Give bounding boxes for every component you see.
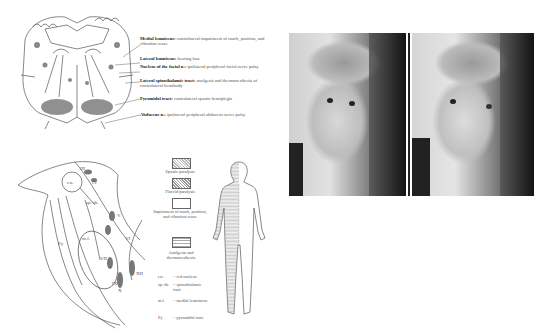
svg-text:IV: IV [92, 180, 98, 185]
label-abducens: Abducens n.: ipsilateral peripheral abdu… [140, 112, 270, 117]
svg-text:X: X [118, 288, 122, 293]
abbr-spth-meaning: = spinothalamic tract [173, 282, 209, 292]
abbr-ml: m.l. [158, 298, 165, 303]
svg-text:VI: VI [125, 236, 131, 241]
legend-swatch-touch [172, 198, 191, 209]
label-rn: r.n. [67, 180, 73, 185]
body-figure-diagram [208, 160, 270, 322]
eye-icon [327, 98, 333, 103]
svg-text:XII: XII [136, 271, 143, 276]
eye-icon [349, 101, 355, 106]
abbr-py-meaning: = pyramidal tract [173, 315, 203, 320]
svg-text:IX: IX [112, 281, 118, 286]
svg-text:III: III [80, 166, 85, 171]
svg-text:VII: VII [100, 256, 107, 261]
photo-divider [408, 33, 410, 196]
legend-swatch-analgesia [172, 237, 191, 248]
legend-swatch-flaccid [172, 178, 191, 189]
label-facial-nucleus: Nucleus of the facial n.: ipsilateral pe… [140, 64, 270, 69]
label-lateral-lemniscus: Lateral lemniscus: hearing loss [140, 56, 270, 61]
svg-text:Py: Py [58, 241, 64, 246]
legend-swatch-spastic [172, 158, 191, 169]
patient-photo-left [289, 33, 406, 196]
abbr-ml-meaning: = medial lemniscus [173, 298, 207, 303]
abbr-py: Py [158, 315, 163, 320]
legend-label-spastic: Spastic paralysis [150, 169, 210, 174]
svg-text:m.l.: m.l. [82, 236, 90, 241]
label-pyramidal-tract: Pyramidal tract: contralateral spastic h… [140, 96, 270, 101]
svg-text:sp.-th.: sp.-th. [86, 200, 99, 205]
label-medial-lemniscus: Medial lemniscus: contralateral impairme… [140, 36, 270, 47]
svg-text:V: V [117, 213, 121, 218]
legend-label-flaccid: Flaccid paralysis [150, 189, 210, 194]
abbr-rn: r.n. [158, 274, 164, 279]
patient-photo-right [412, 33, 534, 196]
eye-icon [450, 99, 456, 104]
abbr-rn-meaning: = red nucleus [173, 274, 197, 279]
sagittal-brainstem-diagram: r.n. III IV sp.-th. V Py m.l. VI VII IX … [0, 160, 150, 330]
eye-icon [486, 104, 492, 109]
label-lateral-spinothalamic: Lateral spinothalamic tract: analgesia a… [140, 78, 270, 89]
abbr-spth: sp.-th. [158, 282, 169, 287]
legend-label-analgesia: Analgesia and thermanesthesia [160, 250, 202, 260]
pons-cross-section-diagram [15, 5, 140, 130]
legend-label-touch: Impairment of touch, position, and vibra… [153, 209, 207, 219]
